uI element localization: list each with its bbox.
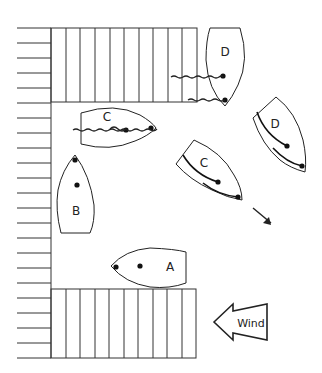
boat-d-moving: D [253,97,306,172]
boat-c-moving: C [176,140,242,200]
boat-label: A [166,260,175,274]
wall-ticks [17,28,51,358]
boat-label: D [270,117,279,131]
boat-b: B [57,155,94,233]
wind-arrow-icon: Wind [214,304,267,340]
docking-diagram: D C B A C [0,0,322,373]
wind-label: Wind [237,317,265,330]
boat-c-moored: C [73,108,157,147]
boat-label: B [72,204,80,218]
boat-label: D [220,45,229,59]
boat-a: A [111,248,186,288]
left-wall [17,28,51,358]
boat-label: C [200,156,208,170]
boat-label: C [103,110,111,124]
lower-dock [51,289,196,358]
upper-dock [51,28,197,102]
motion-arrow-icon [253,208,271,225]
